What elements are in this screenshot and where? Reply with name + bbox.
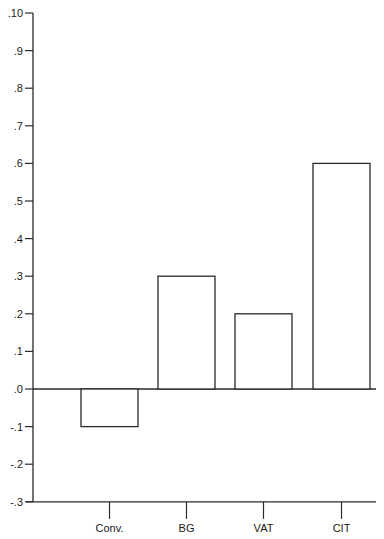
x-category-label: BG bbox=[179, 522, 195, 534]
y-tick-label: .6 bbox=[14, 157, 23, 169]
bar-chart: .10.9.8.7.6.5.4.3.2.1.0-.1-.2-.3 Conv.BG… bbox=[0, 0, 384, 539]
bars bbox=[81, 163, 370, 426]
y-tick-label: .9 bbox=[14, 45, 23, 57]
x-category-label: Conv. bbox=[96, 522, 124, 534]
y-tick-label: .8 bbox=[14, 82, 23, 94]
x-category-label: CIT bbox=[333, 522, 351, 534]
bar-vat bbox=[235, 314, 292, 389]
bar-conv bbox=[81, 389, 138, 427]
y-tick-label: .7 bbox=[14, 120, 23, 132]
y-tick-label: .5 bbox=[14, 195, 23, 207]
y-tick-label: .4 bbox=[14, 233, 23, 245]
x-category-label: VAT bbox=[254, 522, 274, 534]
y-tick-label: .10 bbox=[8, 7, 23, 19]
bar-bg bbox=[158, 276, 215, 389]
x-axis: Conv.BGVATCIT bbox=[26, 502, 376, 534]
y-tick-label: -.3 bbox=[10, 496, 23, 508]
y-tick-label: -.2 bbox=[10, 458, 23, 470]
y-axis: .10.9.8.7.6.5.4.3.2.1.0-.1-.2-.3 bbox=[8, 7, 33, 508]
y-tick-label: -.1 bbox=[10, 421, 23, 433]
y-tick-label: .1 bbox=[14, 345, 23, 357]
y-tick-label: .0 bbox=[14, 383, 23, 395]
y-tick-label: .2 bbox=[14, 308, 23, 320]
bar-cit bbox=[313, 163, 370, 389]
y-tick-label: .3 bbox=[14, 270, 23, 282]
